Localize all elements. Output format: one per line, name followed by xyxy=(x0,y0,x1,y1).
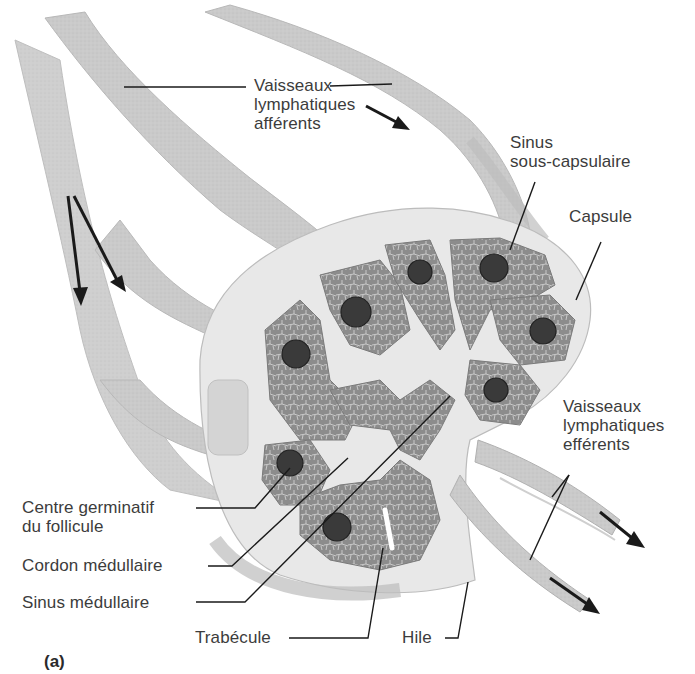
follicle xyxy=(282,340,310,368)
follicle xyxy=(341,297,371,327)
follicle xyxy=(277,450,303,476)
follicle xyxy=(484,378,508,402)
label-trabecula: Trabécule xyxy=(195,628,271,647)
label-subcapsular-sinus: Sinus sous-capsulaire xyxy=(510,133,631,171)
follicle xyxy=(530,318,556,344)
label-medullary-cord: Cordon médullaire xyxy=(22,556,163,575)
follicle xyxy=(408,260,432,284)
follicle xyxy=(323,513,351,541)
label-afferent-vessels: Vaisseaux lymphatiques afférents xyxy=(254,76,355,133)
label-germinal-center: Centre germinatif du follicule xyxy=(22,498,154,536)
label-hilum: Hile xyxy=(402,628,432,647)
efferent-vessels xyxy=(450,440,620,612)
afferent-flow-arrow-top-icon xyxy=(366,106,410,130)
panel-label: (a) xyxy=(44,652,65,672)
label-capsule: Capsule xyxy=(569,207,632,226)
label-efferent-vessels: Vaisseaux lymphatiques efférents xyxy=(563,397,664,454)
label-medullary-sinus: Sinus médullaire xyxy=(22,593,149,612)
leader-hilum xyxy=(445,582,468,638)
follicle xyxy=(480,254,508,282)
